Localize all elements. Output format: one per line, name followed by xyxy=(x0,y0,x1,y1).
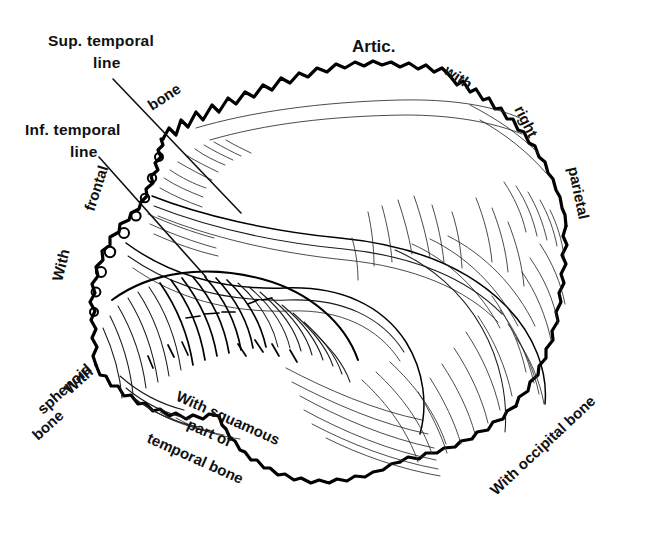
label-parietal: parietal xyxy=(565,165,593,221)
label-with-sphenoid-2: sphenoid xyxy=(34,360,95,417)
bone-outline xyxy=(90,61,567,483)
figure-labels: Sup. temporal line Inf. temporal line Ar… xyxy=(25,32,599,498)
inferior-sweeps xyxy=(286,362,446,476)
label-sup-temporal-line-1: Sup. temporal xyxy=(48,32,154,49)
label-artic: Artic. xyxy=(352,37,395,56)
anatomical-line-drawing: Sup. temporal line Inf. temporal line Ar… xyxy=(0,0,646,545)
label-inf-temporal-line-2: line xyxy=(70,143,98,160)
temporal-fossa-ridge xyxy=(112,272,358,360)
upper-right-border xyxy=(450,76,566,226)
label-inf-temporal-line-1: Inf. temporal xyxy=(25,121,121,138)
label-with-frontal-bone-2: frontal xyxy=(81,163,112,213)
right-margin-hatching xyxy=(504,182,564,256)
inferior-temporal-line xyxy=(126,243,424,434)
label-with-top: with xyxy=(440,61,475,92)
label-sup-temporal-line-2: line xyxy=(93,54,121,71)
frontal-border xyxy=(90,202,141,365)
label-with-frontal-bone-3: bone xyxy=(144,80,183,114)
label-right: right xyxy=(511,103,541,140)
label-with-occipital-bone: With occipital bone xyxy=(486,392,598,498)
upper-left-border xyxy=(141,139,163,202)
label-with-frontal-bone-1: With xyxy=(48,247,72,283)
parietal-bone-figure: Sup. temporal line Inf. temporal line Ar… xyxy=(0,0,646,545)
right-border xyxy=(516,226,567,406)
